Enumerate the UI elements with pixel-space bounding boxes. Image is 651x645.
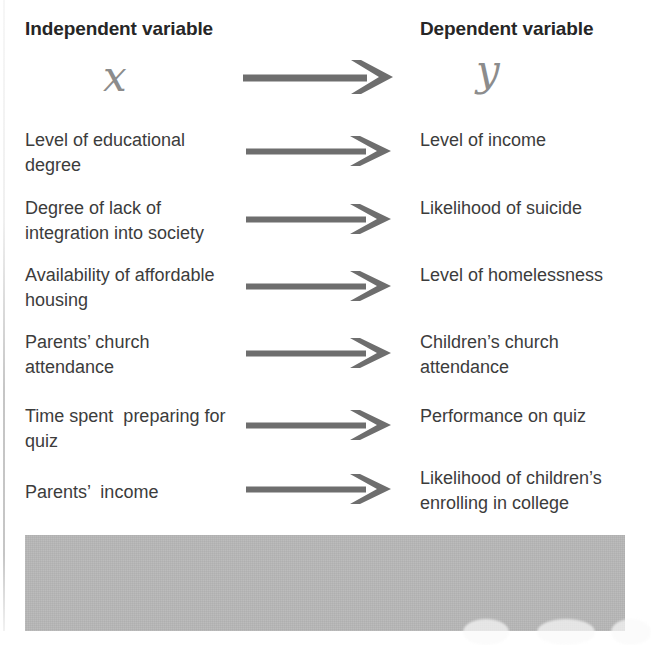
gray-block-highlight [537,619,595,645]
diagram-header: Independent variable Dependent variable … [0,0,638,112]
independent-variable-text: Availability of affordable housing [25,263,240,313]
gray-block-highlight [611,619,651,645]
arrow-right-icon [246,410,401,440]
independent-variable-header: Independent variable [25,18,213,40]
arrow-right-icon [246,338,401,368]
independent-variable-text: Degree of lack of integration into socie… [25,196,240,246]
independent-variable-text: Parents’ church attendance [25,330,240,380]
arrow-right-icon [246,204,401,234]
dependent-variable-text: Level of homelessness [420,263,635,288]
dependent-variable-header: Dependent variable [420,18,593,40]
independent-variable-text: Level of educational degree [25,128,240,178]
dependent-variable-text: Performance on quiz [420,404,635,429]
dependent-variable-text: Children’s church attendance [420,330,635,380]
arrow-right-icon [243,60,403,94]
dependent-variable-text: Likelihood of suicide [420,196,635,221]
independent-variable-symbol: x [103,56,127,98]
bottom-gray-block [25,535,625,631]
dependent-variable-text: Level of income [420,128,635,153]
arrow-right-icon [246,136,401,166]
independent-variable-text: Time spent preparing for quiz [25,404,240,454]
independent-variable-text: Parents’ income [25,480,240,505]
dependent-variable-symbol: y [476,50,500,92]
arrow-right-icon [246,474,401,504]
arrow-right-icon [246,271,401,301]
dependent-variable-text: Likelihood of children’s enrolling in co… [420,466,635,516]
gray-block-highlight [463,619,509,645]
